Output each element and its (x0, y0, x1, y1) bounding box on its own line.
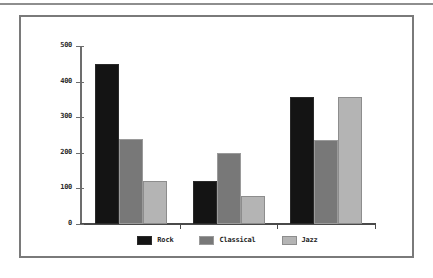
x-axis-tick (180, 223, 181, 229)
y-axis-tick-label: 500 (60, 41, 72, 49)
legend-item-label: Rock (157, 236, 173, 244)
y-axis-tick: 300 (76, 117, 84, 118)
y-axis-tick-mark (76, 188, 84, 189)
legend-item-label: Classical (219, 236, 255, 244)
bar-classical-group2 (217, 153, 241, 224)
x-axis-tick (375, 223, 376, 229)
y-axis-tick-mark (76, 117, 84, 118)
bar-rock-group3 (290, 97, 314, 224)
classical-swatch (199, 236, 214, 245)
y-axis-line (80, 46, 82, 225)
bar-rock-group2 (193, 181, 217, 224)
bar-classical-group1 (119, 139, 143, 224)
page-top-edge (0, 0, 433, 5)
bar-jazz-group1 (143, 181, 167, 224)
legend-item-rock[interactable]: Rock (137, 236, 173, 245)
bar-jazz-group2 (241, 196, 265, 224)
y-axis-tick-label: 200 (60, 148, 72, 156)
y-axis-tick: 0 (76, 224, 84, 225)
bar-rock-group1 (95, 64, 119, 224)
y-axis-tick-mark (76, 82, 84, 83)
y-axis-tick-label: 400 (60, 77, 72, 85)
bar-jazz-group3 (338, 97, 362, 224)
y-axis-tick-mark (76, 153, 84, 154)
x-axis-tick (277, 223, 278, 229)
y-axis-tick-label: 300 (60, 112, 72, 120)
y-axis-tick: 400 (76, 82, 84, 83)
y-axis-tick-mark (76, 46, 84, 47)
chart-legend: RockClassicalJazz (80, 230, 375, 250)
plot-area: 0100200300400500 RockClassicalJazz (21, 17, 412, 256)
rock-swatch (137, 236, 152, 245)
jazz-swatch (282, 236, 297, 245)
legend-item-label: Jazz (302, 236, 318, 244)
y-axis-tick: 200 (76, 153, 84, 154)
y-axis-tick-label: 100 (60, 183, 72, 191)
y-axis-tick: 500 (76, 46, 84, 47)
legend-item-classical[interactable]: Classical (199, 236, 255, 245)
y-axis-tick-mark (76, 224, 84, 225)
y-axis-tick: 100 (76, 188, 84, 189)
chart-figure: 0100200300400500 RockClassicalJazz (19, 15, 414, 258)
legend-item-jazz[interactable]: Jazz (282, 236, 318, 245)
y-axis-tick-label: 0 (68, 219, 72, 227)
bar-classical-group3 (314, 140, 338, 224)
